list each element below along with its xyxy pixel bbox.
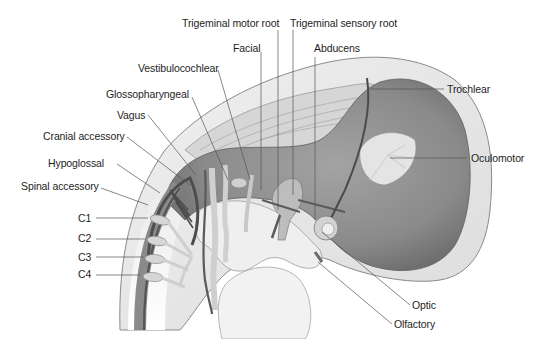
otic-vesicle <box>231 178 247 188</box>
label-glossopharyngeal: Glossopharyngeal <box>106 88 189 100</box>
label-facial: Facial <box>233 42 260 54</box>
anatomy-illustration <box>0 0 537 339</box>
label-c1: C1 <box>78 212 91 224</box>
label-c2: C2 <box>78 232 91 244</box>
label-vestibulocochlear: Vestibulocochlear <box>138 62 219 74</box>
glossopharyngeal-trunk <box>225 165 227 262</box>
label-vagus: Vagus <box>117 109 146 121</box>
label-oculomotor: Oculomotor <box>471 152 524 164</box>
vagus-trunk <box>212 168 215 310</box>
label-optic: Optic <box>412 299 436 311</box>
label-abducens: Abducens <box>314 42 360 54</box>
label-olfactory: Olfactory <box>394 318 435 330</box>
label-trochlear: Trochlear <box>447 83 490 95</box>
label-cranial-accessory: Cranial accessory <box>43 130 125 142</box>
label-c3: C3 <box>78 251 91 263</box>
label-c4: C4 <box>78 268 91 280</box>
heart-bulge <box>218 267 311 339</box>
label-trigeminal-sensory-root: Trigeminal sensory root <box>290 17 397 29</box>
label-trigeminal-motor-root: Trigeminal motor root <box>182 17 279 29</box>
label-spinal-accessory: Spinal accessory <box>21 180 99 192</box>
label-hypoglossal: Hypoglossal <box>48 157 104 169</box>
embryo-cranial-nerves-diagram: Trigeminal motor root Trigeminal sensory… <box>0 0 537 339</box>
